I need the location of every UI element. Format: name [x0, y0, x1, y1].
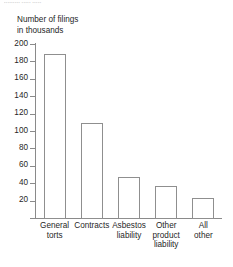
- x-tick-label: All other: [180, 221, 227, 240]
- cut-off-header-text: ▪▪▪▪▪▪▪▪▪ ▪▪▪▪▪ ▪▪▪▪▪: [4, 1, 214, 5]
- y-tick-label: 180: [4, 57, 28, 65]
- bar: [155, 186, 177, 219]
- y-tick-label: 80: [4, 144, 28, 152]
- y-tick-label: 60: [4, 161, 28, 169]
- y-tick-label: 160: [4, 74, 28, 82]
- y-tick-label: 120: [4, 109, 28, 117]
- bar: [81, 123, 103, 219]
- y-tick-label: 40: [4, 179, 28, 187]
- bar: [192, 198, 214, 219]
- y-tick-label: 140: [4, 92, 28, 100]
- x-axis-labels: General tortsContractsAsbestos liability…: [30, 221, 230, 266]
- bar-chart: ▪▪▪▪▪▪▪▪▪ ▪▪▪▪▪ ▪▪▪▪▪ Number of filings …: [0, 0, 233, 267]
- y-tick-label: 200: [4, 40, 28, 48]
- bar: [118, 177, 140, 219]
- bar: [44, 54, 66, 219]
- bar-series: [36, 44, 222, 219]
- y-tick-label: 100: [4, 127, 28, 135]
- y-tick-label: 20: [4, 196, 28, 204]
- y-axis-title: Number of filings in thousands: [17, 15, 78, 36]
